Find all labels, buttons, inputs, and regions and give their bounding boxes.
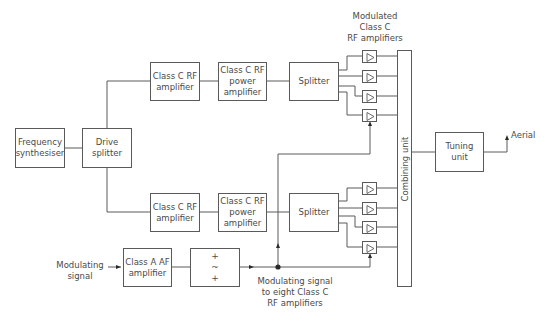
filter-symbol-plus: + xyxy=(211,251,219,262)
class-a-af-amplifier-block: Class A AF amplifier xyxy=(123,248,172,287)
amplifier-triangle-icon xyxy=(362,221,377,234)
amplifier-triangle-icon xyxy=(362,202,377,215)
modulating-to-eight-label: Modulating signal to eight Class C RF am… xyxy=(244,276,346,309)
amplifier-triangle-icon xyxy=(362,241,377,254)
filter-symbol-plus: + xyxy=(211,273,219,284)
top-class-c-rf-power-amplifier-block: Class C RF power amplifier xyxy=(218,62,267,101)
amplifier-triangle-icon xyxy=(362,90,377,103)
bottom-class-c-rf-amplifier-block: Class C RF amplifier xyxy=(150,193,200,232)
amplifier-triangle-icon xyxy=(362,109,377,122)
frequency-synthesiser-block: Frequency synthesiser xyxy=(15,128,65,168)
modulated-amplifiers-label: Modulated Class C RF amplifiers xyxy=(340,11,410,44)
drive-splitter-block: Drive splitter xyxy=(82,128,132,168)
combining-unit-block: Combining unit xyxy=(397,50,412,287)
top-class-c-rf-amplifier-block: Class C RF amplifier xyxy=(150,62,200,101)
aerial-label: Aerial xyxy=(511,130,535,141)
amplifier-triangle-icon xyxy=(362,70,377,83)
tuning-unit-block: Tuning unit xyxy=(435,132,484,172)
amplifier-triangle-icon xyxy=(362,182,377,195)
filter-symbol-tilde: ~ xyxy=(211,262,219,273)
combining-unit-label: Combining unit xyxy=(400,136,410,201)
top-splitter-block: Splitter xyxy=(289,62,339,101)
bottom-splitter-block: Splitter xyxy=(289,193,339,232)
filter-block: + ~ + xyxy=(190,248,240,287)
bottom-class-c-rf-power-amplifier-block: Class C RF power amplifier xyxy=(218,193,267,232)
modulating-signal-label: Modulating signal xyxy=(52,260,108,282)
amplifier-triangle-icon xyxy=(362,50,377,63)
